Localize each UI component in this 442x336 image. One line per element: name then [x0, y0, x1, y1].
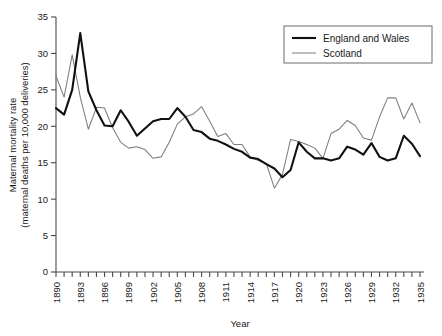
chart-canvas: 05101520253035 1890189318961899190219051…: [0, 0, 442, 336]
y-tick-label: 20: [37, 121, 48, 132]
y-tick-label: 35: [37, 11, 48, 22]
x-tick-label: 1932: [390, 282, 401, 303]
x-tick-label: 1893: [75, 282, 86, 303]
x-tick-label: 1920: [293, 282, 304, 303]
y-tick-label: 5: [43, 230, 48, 241]
legend-label-scotland: Scotland: [323, 48, 362, 59]
y-tick-label: 10: [37, 194, 48, 205]
x-tick-label: 1908: [196, 282, 207, 303]
x-tick-label: 1911: [220, 282, 231, 302]
x-tick-label: 1905: [172, 282, 183, 303]
y-tick-label: 0: [43, 266, 48, 277]
y-axis-tick-labels: 05101520253035: [37, 11, 48, 277]
series-line-scotland: [56, 55, 420, 188]
maternal-mortality-chart: 05101520253035 1890189318961899190219051…: [0, 0, 442, 336]
legend-label-england-and-wales: England and Wales: [323, 33, 409, 44]
y-axis-title-line2: (maternal deaths per 10,000 deliveries): [19, 62, 30, 227]
chart-legend: England and Wales Scotland: [284, 26, 432, 63]
x-axis-title: Year: [230, 318, 249, 329]
x-tick-label: 1899: [123, 282, 134, 303]
x-tick-label: 1926: [342, 282, 353, 303]
x-axis-tick-labels: 1890189318961899190219051908191119141917…: [51, 282, 426, 303]
x-tick-label: 1896: [99, 282, 110, 303]
y-tick-label: 15: [37, 157, 48, 168]
x-tick-label: 1902: [148, 282, 159, 303]
x-tick-label: 1917: [269, 282, 280, 303]
x-tick-label: 1929: [366, 282, 377, 303]
y-axis-ticks: [51, 17, 56, 272]
y-tick-label: 25: [37, 84, 48, 95]
x-tick-label: 1923: [318, 282, 329, 303]
y-tick-label: 30: [37, 48, 48, 59]
x-tick-label: 1890: [51, 282, 62, 303]
y-axis-title-line1: Maternal mortality rate: [7, 98, 18, 193]
x-axis-ticks: [56, 272, 420, 277]
x-tick-label: 1914: [245, 282, 256, 303]
x-tick-label: 1935: [415, 282, 426, 303]
